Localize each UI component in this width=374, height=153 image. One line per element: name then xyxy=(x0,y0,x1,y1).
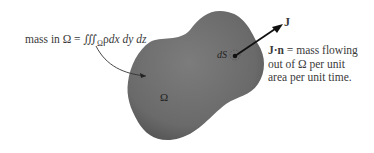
flux-vector-arrowhead-icon xyxy=(272,24,283,33)
surface-element-label: dS xyxy=(217,48,227,62)
region-omega-label: Ω xyxy=(160,91,168,105)
flux-line-3: area per unit time. xyxy=(268,71,358,85)
flux-line-2: out of Ω per unit xyxy=(268,58,358,72)
vector-j-label: J xyxy=(284,16,290,30)
region-blob xyxy=(127,11,264,140)
mass-integral-label: mass in Ω = ∭Ωρdx dy dz xyxy=(25,33,146,51)
mass-prefix: mass in Ω = ∭ xyxy=(25,33,97,45)
mass-flux-figure: mass in Ω = ∭Ωρdx dy dz J J·n = mass flo… xyxy=(0,0,374,153)
flux-description: J·n = mass flowing out of Ω per unit are… xyxy=(268,44,358,85)
differentials: dx dy dz xyxy=(109,33,147,45)
flux-line-1: J·n = mass flowing xyxy=(268,44,358,58)
flux-line-1-rest: = mass flowing xyxy=(284,44,358,56)
j-dot-n-term: J·n xyxy=(268,44,284,56)
